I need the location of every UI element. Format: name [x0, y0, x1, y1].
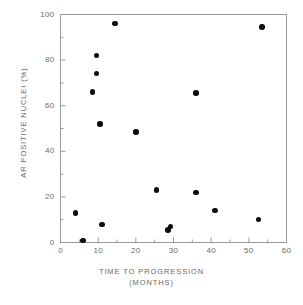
x-tick-label: 40: [201, 246, 221, 255]
x-axis-label-container: TIME TO PROGRESSION (MONTHS): [0, 266, 303, 288]
y-tick-label: 100: [31, 10, 55, 19]
data-point: [259, 24, 264, 29]
y-tick-label: 40: [31, 146, 55, 155]
data-point: [90, 89, 95, 94]
y-axis-label: AR POSITIVE NUCLEI (%): [19, 38, 28, 208]
x-axis-label-units: (MONTHS): [0, 277, 303, 288]
data-point: [193, 190, 198, 195]
plot-frame: [61, 15, 287, 243]
data-point: [133, 129, 138, 134]
x-tick-label: 60: [277, 246, 297, 255]
y-axis-label-container: AR POSITIVE NUCLEI (%): [0, 0, 22, 245]
x-tick-label: 10: [88, 246, 108, 255]
data-point: [112, 21, 117, 26]
data-point: [99, 222, 104, 227]
data-point: [80, 238, 85, 243]
data-point: [97, 121, 102, 126]
scatter-plot-figure: 0102030405060020406080100 AR POSITIVE NU…: [0, 0, 303, 305]
data-point: [193, 90, 198, 95]
x-axis-ticks: [61, 238, 287, 243]
x-tick-label: 50: [239, 246, 259, 255]
data-point: [212, 208, 217, 213]
x-tick-label: 30: [164, 246, 184, 255]
x-tick-label: 20: [126, 246, 146, 255]
x-tick-label: 0: [51, 246, 71, 255]
y-axis-ticks: [61, 15, 66, 243]
y-tick-label: 80: [31, 55, 55, 64]
data-point: [73, 210, 78, 215]
data-point: [154, 187, 159, 192]
y-tick-label: 60: [31, 101, 55, 110]
y-tick-label: 0: [31, 238, 55, 247]
x-axis-label: TIME TO PROGRESSION: [0, 266, 303, 277]
y-tick-label: 20: [31, 192, 55, 201]
